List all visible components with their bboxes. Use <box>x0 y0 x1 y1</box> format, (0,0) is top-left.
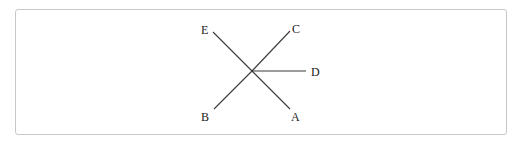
label-A: A <box>291 110 300 124</box>
label-D: D <box>311 65 320 79</box>
ray-E <box>213 32 252 71</box>
label-C: C <box>292 22 300 36</box>
label-E: E <box>201 23 208 37</box>
ray-C <box>252 31 290 71</box>
ray-A <box>252 71 290 109</box>
ray-B <box>214 71 252 109</box>
label-B: B <box>201 110 209 124</box>
rays-diagram: E C D B A <box>0 0 519 144</box>
